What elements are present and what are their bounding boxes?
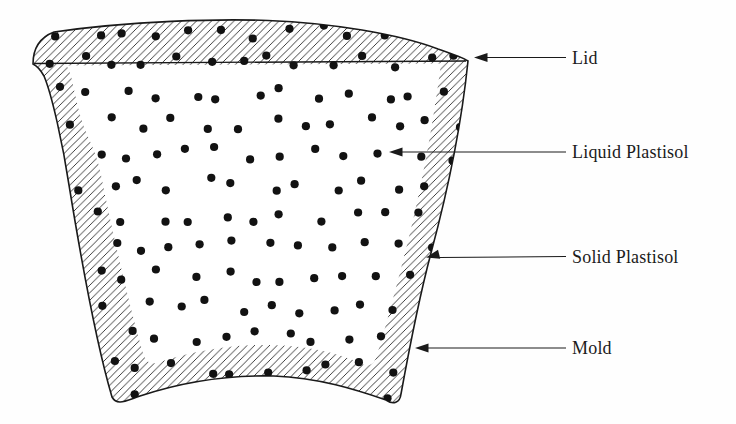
plastisol-particle-dot [56,83,64,91]
plastisol-particle-dot [152,265,160,273]
plastisol-particle-dot [388,306,396,314]
plastisol-particle-dot [204,125,212,133]
plastisol-particle-dot [226,179,234,187]
plastisol-particle-dot [28,213,36,221]
plastisol-particle-dot [194,93,202,101]
plastisol-particle-dot [61,209,69,217]
plastisol-particle-dot [222,333,230,341]
plastisol-particle-dot [166,114,174,122]
plastisol-particle-dot [275,210,283,218]
plastisol-particle-dot [117,276,125,284]
plastisol-particle-dot [249,34,257,42]
plastisol-particle-dot [251,327,259,335]
plastisol-particle-dot [200,296,208,304]
plastisol-particle-dot [154,396,162,404]
plastisol-particle-dot [275,84,283,92]
mold-arrowhead-icon [415,343,429,352]
plastisol-particle-dot [137,61,145,69]
plastisol-particle-dot [34,304,42,312]
plastisol-particle-dot [311,145,319,153]
plastisol-particle-dot [82,52,90,60]
plastisol-particle-dot [331,306,339,314]
plastisol-particle-dot [372,272,380,280]
plastisol-particle-dot [254,389,262,397]
plastisol-particle-dot [74,186,82,194]
plastisol-particle-dot [74,300,82,308]
plastisol-particle-dot [65,398,73,406]
plastisol-particle-dot [227,237,235,245]
label-liquid-plastisol: Liquid Plastisol [572,142,689,163]
plastisol-particle-dot [94,207,102,215]
plastisol-particle-dot [252,278,260,286]
plastisol-particle-dot [246,155,254,163]
plastisol-particle-dot [129,327,137,335]
plastisol-particle-dot [274,115,282,123]
plastisol-particle-dot [227,268,235,276]
plastisol-particle-dot [190,401,198,409]
plastisol-particle-dot [234,125,242,133]
plastisol-particle-dot [361,238,369,246]
plastisol-particle-dot [31,155,39,163]
plastisol-particle-dot [338,272,346,280]
plastisol-mold-diagram [0,0,736,424]
plastisol-particle-dot [441,213,449,221]
plastisol-particle-dot [51,32,59,40]
plastisol-particle-dot [44,247,52,255]
plastisol-particle-dot [387,95,395,103]
plastisol-particle-dot [207,174,215,182]
plastisol-particle-dot [381,31,389,39]
plastisol-particle-dot [320,22,328,30]
plastisol-particle-dot [420,182,428,190]
plastisol-particle-dot [125,87,133,95]
plastisol-particle-dot [339,152,347,160]
plastisol-particle-dot [107,61,115,69]
plastisol-particle-dot [314,387,322,395]
plastisol-particle-dot [52,143,60,151]
plastisol-particle-dot [355,358,363,366]
plastisol-particle-dot [276,153,284,161]
plastisol-particle-dot [210,143,218,151]
plastisol-particle-dot [211,95,219,103]
plastisol-particle-dot [150,335,158,343]
plastisol-particle-dot [98,267,106,275]
plastisol-particle-dot [433,332,441,340]
plastisol-particle-dot [131,364,139,372]
plastisol-particle-dot [328,243,336,251]
plastisol-particle-dot [467,362,475,370]
plastisol-particle-dot [391,63,399,71]
plastisol-particle-dot [178,302,186,310]
plastisol-particle-dot [440,88,448,96]
plastisol-particle-dot [396,122,404,130]
plastisol-particle-dot [249,218,257,226]
plastisol-particle-dot [291,180,299,188]
mold-arrow [415,343,566,352]
plastisol-particle-dot [167,359,175,367]
plastisol-particle-dot [208,58,216,66]
plastisol-particle-dot [161,218,169,226]
plastisol-particle-dot [414,209,422,217]
figure-canvas: Lid Liquid Plastisol Solid Plastisol Mol… [0,0,736,424]
plastisol-particle-dot [411,24,419,32]
plastisol-particle-dot [268,301,276,309]
plastisol-particle-dot [406,271,414,279]
plastisol-particle-dot [315,95,323,103]
plastisol-particle-dot [377,332,385,340]
plastisol-particle-dot [152,94,160,102]
plastisol-particle-dot [456,243,464,251]
plastisol-particle-dot [21,389,29,397]
plastisol-particle-dot [345,90,353,98]
plastisol-particle-dot [46,60,54,68]
plastisol-particle-dot [153,150,161,158]
plastisol-particle-dot [454,178,462,186]
plastisol-particle-dot [81,88,89,96]
plastisol-particle-dot [240,57,248,65]
plastisol-particle-dot [133,176,141,184]
plastisol-particle-dot [33,89,41,97]
plastisol-particle-dot [98,302,106,310]
plastisol-particle-dot [146,298,154,306]
plastisol-particle-dot [282,391,290,399]
plastisol-particle-dot [86,334,94,342]
plastisol-particle-dot [240,308,248,316]
plastisol-particle-dot [432,358,440,366]
plastisol-particle-dot [343,32,351,40]
